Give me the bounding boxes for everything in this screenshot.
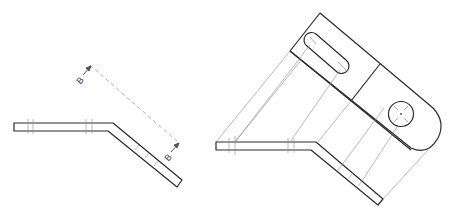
hole-center-point	[400, 113, 402, 115]
hole-centermark	[404, 118, 408, 122]
projection-line	[216, 51, 290, 142]
aux-edge-outline	[216, 142, 383, 205]
projection-line	[235, 45, 310, 142]
feature-mark	[349, 173, 353, 178]
section-label-end: B	[162, 152, 174, 163]
projection-line	[383, 150, 428, 199]
divider-line	[351, 64, 380, 101]
auxiliary-view	[216, 13, 441, 205]
projection-line	[318, 101, 351, 142]
section-label-start: B	[74, 75, 86, 86]
edge-view-outline	[14, 123, 182, 187]
slot-centermark	[310, 37, 316, 44]
drawing-canvas: B B	[0, 0, 454, 221]
projection-line	[362, 127, 397, 181]
edge-view: B B	[14, 65, 182, 187]
hole-centermark	[404, 106, 408, 110]
projection-line	[235, 59, 302, 142]
feature-mark	[338, 165, 342, 170]
hole-centermark	[394, 106, 398, 110]
feature-mark	[145, 152, 150, 158]
fold-line	[290, 51, 411, 150]
hole-centermark	[394, 118, 398, 122]
slot-centermark	[338, 62, 346, 70]
feature-mark	[135, 145, 139, 150]
projection-line	[290, 70, 340, 142]
feature-mark	[358, 181, 362, 186]
feature-mark	[154, 161, 158, 166]
